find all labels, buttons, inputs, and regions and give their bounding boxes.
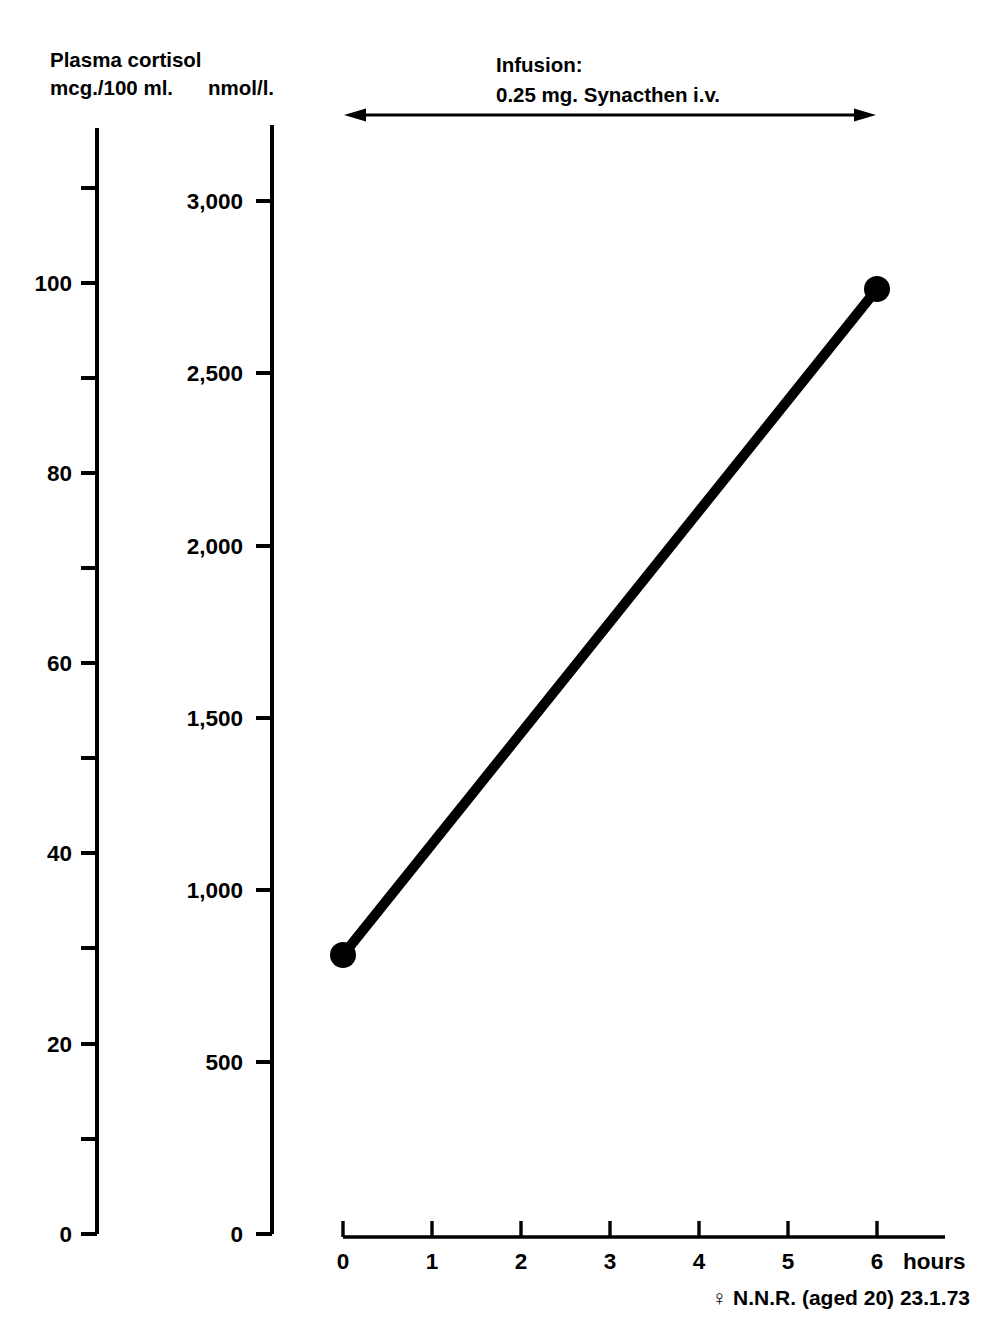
x-axis-tick-label: 3 xyxy=(590,1247,630,1277)
nmol-axis-tick-label: 2,500 xyxy=(147,359,243,389)
nmol-axis-tick-label: 1,500 xyxy=(147,704,243,734)
left-axis-tick-label: 80 xyxy=(16,459,72,489)
data-point xyxy=(864,276,890,302)
x-axis-tick-label: 4 xyxy=(679,1247,719,1277)
x-axis-tick-label: 1 xyxy=(412,1247,452,1277)
x-axis-tick-label: 0 xyxy=(323,1247,363,1277)
nmol-axis-tick-label: 3,000 xyxy=(147,187,243,217)
x-axis-tick-label: 6 xyxy=(857,1247,897,1277)
left-axis-tick-label: 40 xyxy=(16,839,72,869)
left-axis-tick-label: 100 xyxy=(16,269,72,299)
x-axis-tick-label: 2 xyxy=(501,1247,541,1277)
nmol-axis-tick-label: 2,000 xyxy=(147,532,243,562)
left-axis-tick-label: 0 xyxy=(16,1220,72,1250)
figure-caption: ♀ N.N.R. (aged 20) 23.1.73 xyxy=(545,1284,970,1312)
left-axis-tick-label: 20 xyxy=(16,1030,72,1060)
nmol-axis-tick-label: 500 xyxy=(147,1048,243,1078)
left-axis xyxy=(81,128,97,1234)
left-axis-tick-label: 60 xyxy=(16,649,72,679)
data-series-plasma-cortisol xyxy=(330,276,890,968)
x-axis xyxy=(343,1221,945,1237)
nmol-axis-tick-label: 0 xyxy=(147,1220,243,1250)
data-point xyxy=(330,942,356,968)
chart-figure: Plasma cortisol mcg./100 ml. nmol/l. Inf… xyxy=(0,0,985,1333)
x-axis-tick-label: 5 xyxy=(768,1247,808,1277)
nmol-axis-tick-label: 1,000 xyxy=(147,876,243,906)
x-axis-unit-label: hours xyxy=(903,1247,966,1277)
infusion-arrow-icon xyxy=(344,109,876,122)
nmol-axis xyxy=(256,125,272,1234)
